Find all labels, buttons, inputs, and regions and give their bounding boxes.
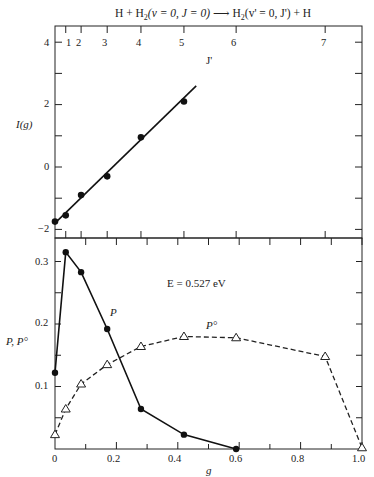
energy-annotation: E = 0.527 eV [167, 278, 226, 289]
P-point [104, 326, 110, 332]
jprime-axis-label: J' [206, 55, 212, 66]
title-left: H + H [115, 7, 144, 19]
P0-point [51, 430, 60, 438]
P-point [63, 249, 69, 255]
x-axis-label: g [206, 465, 212, 476]
P0-point [61, 405, 70, 413]
lower-ytick-0.3: 0.3 [35, 257, 48, 268]
upper-y-axis-label: I(g) [16, 119, 33, 130]
P-point [78, 269, 84, 275]
lower-ytick-0.2: 0.2 [35, 318, 48, 329]
fit-line [55, 86, 196, 223]
data-point [104, 173, 111, 180]
xtick-0.6: 0.6 [229, 454, 242, 465]
upper-ytick-4: 4 [44, 38, 49, 49]
xtick-0: 0 [52, 454, 57, 465]
title-mid: (v = 0, J = 0) [148, 7, 210, 19]
data-point [52, 218, 59, 225]
xtick-0.2: 0.2 [107, 454, 120, 465]
chart-title: H + H2(v = 0, J = 0)⟶H2(v' = 0, J') + H [115, 8, 311, 22]
data-point [138, 134, 145, 141]
title-right-mid: (v' = 0, J') + H [245, 7, 311, 19]
upper-ytick-0: 0 [44, 162, 49, 173]
upper-series [52, 86, 197, 225]
P0-point [179, 332, 188, 340]
P0-point [358, 443, 367, 451]
lower-ytick-0.1: 0.1 [35, 381, 48, 392]
jtick-5: 5 [179, 38, 184, 49]
jtick-4: 4 [136, 38, 141, 49]
xtick-1.0: 1.0 [352, 454, 365, 465]
P-point [233, 446, 239, 452]
P-point [138, 406, 144, 412]
P-point [52, 370, 58, 376]
xtick-0.4: 0.4 [168, 454, 181, 465]
P-point [181, 431, 187, 437]
jtick-6: 6 [231, 38, 236, 49]
lower-y-axis-label: P, P° [6, 336, 28, 347]
energy-text: E = 0.527 eV [167, 277, 226, 289]
upper-ytick-2: 2 [44, 99, 49, 110]
lower-plot-frame [55, 238, 362, 449]
upper-ytick-neg2: −2 [38, 224, 49, 235]
data-point [78, 192, 85, 199]
P0-point [103, 360, 112, 368]
series-P0-line [55, 337, 362, 448]
data-point [62, 212, 69, 219]
figure [0, 0, 374, 477]
xtick-0.8: 0.8 [291, 454, 304, 465]
data-point [181, 98, 188, 105]
jtick-7: 7 [321, 38, 326, 49]
P0-point [232, 333, 241, 341]
curve-label-P: P [110, 307, 117, 318]
jtick-1: 1 [66, 38, 71, 49]
title-right: H [233, 7, 241, 19]
P0-point [77, 380, 86, 388]
jtick-3: 3 [102, 38, 107, 49]
curve-label-P0: P° [206, 320, 217, 331]
arrow-icon: ⟶ [213, 7, 230, 19]
jtick-2: 2 [76, 38, 81, 49]
